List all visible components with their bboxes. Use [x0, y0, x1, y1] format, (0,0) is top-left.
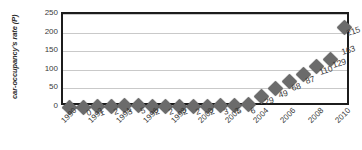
chart-container: car-occupancy's rate (P) 050100150200250… [0, 0, 362, 150]
data-point-label: 68 [290, 80, 302, 92]
x-axis-tick-labels: 1990199219941996199820002002200420062008… [0, 106, 362, 150]
y-axis-tick-label: 150 [45, 45, 58, 54]
data-point-label: 163 [340, 43, 357, 57]
data-point-label: 87 [304, 73, 316, 85]
data-series: 012352222235629496887110129215163 [63, 14, 347, 103]
y-axis-tick-label: 200 [45, 26, 58, 35]
y-axis-tick-labels: 050100150200250 [28, 0, 58, 115]
y-axis-tick-label: 100 [45, 63, 58, 72]
y-axis-title: car-occupancy's rate (P) [10, 9, 20, 105]
plot-area: 012352222235629496887110129215163 [61, 12, 349, 105]
y-axis-tick-label: 50 [49, 82, 58, 91]
y-axis-tick-label: 250 [45, 8, 58, 17]
data-point-label: 49 [276, 87, 288, 99]
